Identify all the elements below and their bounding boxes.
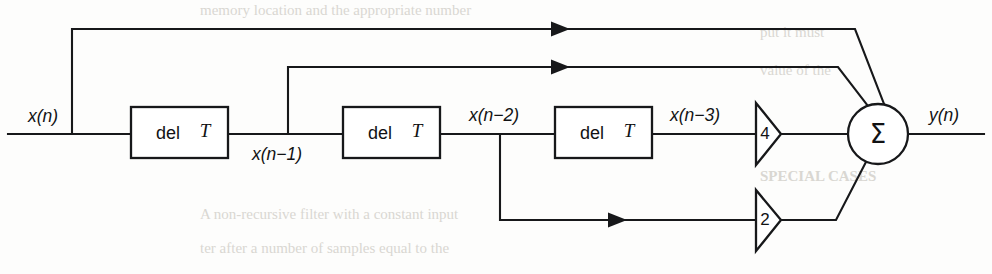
label-tap-xn1: x(n−1) bbox=[251, 144, 302, 164]
gain-triangle-4-value: 4 bbox=[760, 124, 769, 143]
delay-block-1-symbol: T bbox=[200, 120, 212, 141]
gain-triangle-2-value: 2 bbox=[760, 210, 769, 229]
arrowhead-feedforward-xn bbox=[551, 22, 570, 37]
wire-gain2-to-summer bbox=[780, 162, 866, 220]
label-output-yn: y(n) bbox=[928, 105, 959, 125]
delay-block-3-prefix: del bbox=[580, 123, 604, 143]
delay-block-2-symbol: T bbox=[412, 120, 424, 141]
label-input-xn: x(n) bbox=[27, 106, 58, 126]
delay-block-1-prefix: del bbox=[156, 123, 180, 143]
diagram-canvas: memory location and the appropriate numb… bbox=[0, 0, 992, 274]
summing-junction-symbol: Σ bbox=[870, 119, 886, 149]
label-tap-xn2: x(n−2) bbox=[468, 105, 519, 125]
arrowhead-branch-xn2 bbox=[608, 213, 627, 228]
arrowhead-feedforward-xn1 bbox=[551, 60, 570, 75]
delay-block-3-symbol: T bbox=[624, 120, 636, 141]
label-tap-xn3: x(n−3) bbox=[669, 105, 720, 125]
delay-block-2-prefix: del bbox=[368, 123, 392, 143]
